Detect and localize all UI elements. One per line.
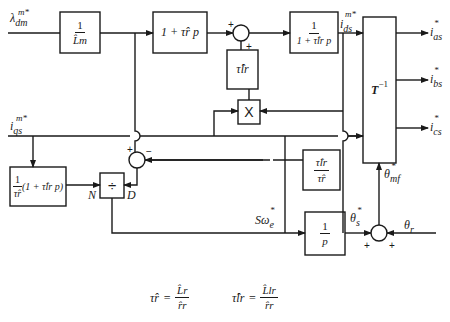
lambda-dm-input-label: λdmm* <box>10 12 27 24</box>
multiplier-block: X <box>238 100 260 124</box>
inverse-transform-block: T−1 <box>363 17 396 163</box>
inverse-lm-block: 1L̂m <box>60 12 100 53</box>
ids-signal-label: idsm* <box>340 18 352 30</box>
integrator-block: 1p <box>305 212 345 255</box>
divider-port-d: D <box>127 189 136 201</box>
iqs-input-label: iqsm* <box>10 120 22 132</box>
sum2-sign-top: + <box>127 144 133 155</box>
slip-frequency-label: Sωe* <box>255 214 274 226</box>
sum1-sign-bottom: + <box>246 41 252 52</box>
rotor-lead-block: 1 + τ̂r p <box>153 12 207 53</box>
theta-s-label: θs* <box>350 212 360 224</box>
sum1-sign-left: + <box>228 19 234 30</box>
output-ibs-label: ibs* <box>430 73 442 85</box>
sum2-sign-right: − <box>146 146 152 157</box>
output-ics-label: ics* <box>430 121 442 133</box>
tau-lr-gain-block: τ̂lr <box>227 50 258 89</box>
output-ias-label: ias* <box>430 26 442 38</box>
theta-mf-label: θmf* <box>384 168 400 180</box>
tau-r-definition: τ̂r= L̂rr̂r <box>150 284 189 311</box>
divider-port-n: N <box>88 189 96 201</box>
theta-r-input-label: θr <box>404 219 414 231</box>
divider-block: ÷ <box>100 173 124 198</box>
leakage-lag-block: 11 + τ̂lr p <box>290 12 338 53</box>
tau-lr-definition: τ̂lr= L̂lrr̂r <box>232 284 278 311</box>
slip-numerator-block: 1τ̂r(1 + τ̂lr p) <box>10 167 66 206</box>
sum3-sign-right: + <box>389 240 395 251</box>
sum3-sign-left: + <box>364 240 370 251</box>
tau-ratio-block: τ̂lrτ̂r <box>303 150 340 190</box>
